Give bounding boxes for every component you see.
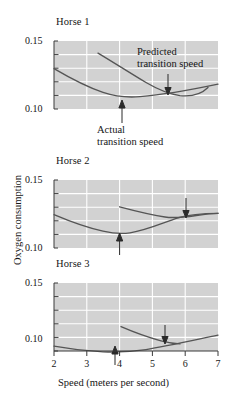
panel-horse-2-gridlines xyxy=(54,180,218,248)
panel-horse-1: Horse 1 0.15 0.10 xyxy=(0,0,227,130)
xtick-label-7: 7 xyxy=(210,358,226,369)
horse-gait-oxygen-consumption-figure: Oxygen consumption Horse 1 0.15 0.10 xyxy=(0,0,227,411)
panel-horse-1-gridlines xyxy=(54,41,218,109)
actual-transition-speed-annotation-line1: Actual xyxy=(97,124,125,136)
xtick-label-4: 4 xyxy=(112,358,128,369)
panel-horse-2-trot-curve xyxy=(120,207,218,218)
panel-horse-2-graphics xyxy=(0,155,227,255)
predicted-transition-speed-annotation-line1: Predicted xyxy=(137,46,177,58)
xtick-label-5: 5 xyxy=(144,358,160,369)
actual-transition-speed-annotation-line2: transition speed xyxy=(97,136,163,148)
x-axis xyxy=(54,351,218,356)
panel-horse-3-trot-curve xyxy=(121,327,180,344)
predicted-transition-speed-annotation-line2: transition speed xyxy=(137,58,203,70)
panel-horse-2: Horse 2 0.15 0.10 xyxy=(0,155,227,255)
x-axis-title: Speed (meters per second) xyxy=(58,377,169,388)
panel-horse-2-y-axis xyxy=(54,180,59,248)
panel-horse-3: Horse 3 0.15 0.10 xyxy=(0,255,227,411)
panel-horse-2-actual-arrow xyxy=(117,233,123,255)
panel-horse-3-y-axis xyxy=(54,283,59,351)
xtick-label-2: 2 xyxy=(46,358,62,369)
panel-horse-1-walk-curve xyxy=(54,69,218,97)
xtick-label-3: 3 xyxy=(79,358,95,369)
xtick-label-6: 6 xyxy=(177,358,193,369)
panel-horse-1-y-axis xyxy=(54,41,59,109)
